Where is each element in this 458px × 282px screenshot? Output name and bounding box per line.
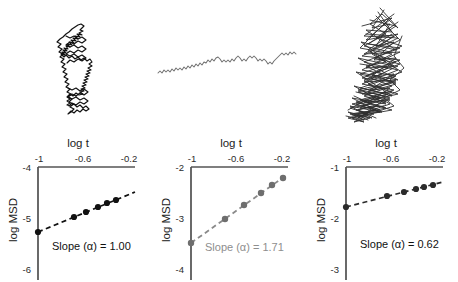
data-point (222, 216, 228, 222)
brownian-trajectory-icon (0, 0, 152, 130)
x-tick-label-0-2: -0.2 (121, 153, 137, 164)
trajectory-plot-1 (153, 0, 305, 130)
data-point (95, 204, 101, 210)
panel-confined: log t -1 -0.6 -0.2 -1 -2 -3 log MSD Slop… (306, 0, 458, 282)
data-point (71, 214, 77, 220)
data-point (280, 175, 286, 181)
trajectory-plot-0 (0, 0, 152, 130)
data-point (413, 186, 419, 192)
y-axis-title-0: log MSD (7, 198, 19, 242)
x-axis-title-0: log t (67, 137, 90, 149)
y-tick-label-2-1: -2 (331, 213, 339, 224)
x-tick-label-0-1: -0.6 (75, 153, 91, 164)
data-point (104, 200, 110, 206)
data-point (241, 202, 247, 208)
x-tick-label-1-2: -0.2 (274, 153, 290, 164)
data-point (269, 182, 275, 188)
x-axis-title-1: log t (220, 137, 243, 149)
data-point (258, 190, 264, 196)
x-tick-label-1-0: -1 (188, 153, 196, 164)
y-tick-label-2-0: -1 (331, 162, 339, 173)
x-tick-label-1-1: -0.6 (228, 153, 244, 164)
data-point (430, 182, 436, 188)
slope-annotation-2: Slope (α) = 0.62 (360, 238, 439, 250)
panel-brownian: log t -1 -0.6 -0.2 -4 -5 -6 log MSD (0, 0, 152, 282)
slope-annotation-1: Slope (α) = 1.71 (205, 241, 284, 253)
directed-trajectory-icon (153, 0, 305, 130)
data-point (343, 204, 349, 210)
y-axis-title-2: log MSD (315, 198, 327, 242)
x-tick-label-2-0: -1 (343, 153, 351, 164)
data-point (384, 193, 390, 199)
msd-figure: log t -1 -0.6 -0.2 -4 -5 -6 log MSD (0, 0, 458, 282)
panel-directed: log t -1 -0.6 -0.2 -2 -3 -4 log MSD Slop… (153, 0, 305, 282)
data-point (83, 209, 89, 215)
trajectory-plot-2 (306, 0, 458, 130)
x-tick-label-0-0: -1 (35, 153, 43, 164)
y-axis-title-1: log MSD (160, 198, 172, 242)
slope-annotation-0: Slope (α) = 1.00 (52, 240, 131, 252)
y-tick-label-1-2: -4 (176, 264, 184, 275)
x-axis-title-2: log t (375, 137, 398, 149)
y-tick-label-0-0: -4 (23, 162, 31, 173)
y-tick-label-1-1: -3 (176, 213, 184, 224)
data-point (35, 229, 41, 235)
msd-plot-2: log t -1 -0.6 -0.2 -1 -2 -3 log MSD Slop… (306, 130, 458, 282)
x-tick-label-2-2: -0.2 (429, 153, 445, 164)
data-point (113, 197, 119, 203)
data-point (401, 189, 407, 195)
y-tick-label-0-1: -5 (23, 213, 31, 224)
confined-trajectory-icon (306, 0, 458, 130)
data-point (421, 184, 427, 190)
msd-plot-0: log t -1 -0.6 -0.2 -4 -5 -6 log MSD (0, 130, 152, 282)
data-point (188, 240, 194, 246)
y-tick-label-2-2: -3 (331, 264, 339, 275)
y-tick-label-1-0: -2 (176, 162, 184, 173)
msd-plot-1: log t -1 -0.6 -0.2 -2 -3 -4 log MSD Slop… (153, 130, 305, 282)
y-tick-label-0-2: -6 (23, 264, 31, 275)
x-tick-label-2-1: -0.6 (383, 153, 399, 164)
fit-line-2 (346, 182, 443, 207)
